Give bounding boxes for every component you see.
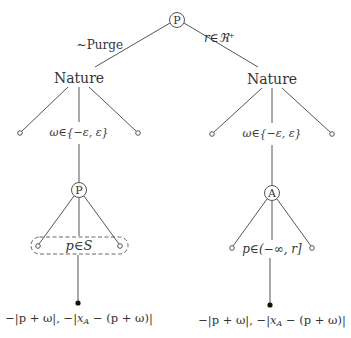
terminal-node [36, 244, 41, 249]
svg-text:P: P [173, 14, 181, 27]
edge-a-left [233, 199, 267, 246]
nature-edge-label-right: ω∈{−ε, ε} [242, 127, 301, 140]
nature-node-right: Nature [247, 71, 297, 87]
edge-nature-left-b [89, 87, 136, 131]
edge-a-right [277, 199, 311, 246]
edge-root-right [184, 23, 258, 67]
info-set-label: p∈S [66, 238, 93, 253]
terminal-node [330, 132, 335, 137]
edge-label-not-purge: ~Purge [77, 38, 123, 52]
choice-label-right: p∈(−∞, r] [242, 242, 302, 256]
terminal-node [18, 131, 23, 136]
nature-edge-label-left: ω∈{−ε, ε} [49, 126, 108, 139]
terminal-node [310, 246, 315, 251]
terminal-node [136, 131, 141, 136]
root-node-p: P [170, 13, 185, 28]
terminal-node [230, 246, 235, 251]
edge-nature-right-b [282, 88, 330, 132]
outcome-node-right [267, 302, 272, 307]
terminal-node [118, 244, 123, 249]
terminal-node [210, 132, 215, 137]
outcome-node-left [75, 300, 80, 305]
payoff-left: −|p + ω|, −|xA − (p + ω)| [5, 311, 153, 326]
svg-text:P: P [75, 184, 83, 197]
left-player-node-p: P [72, 183, 87, 198]
edge-label-r-positive-reals: r∈ℜ⁺ [204, 31, 235, 45]
nature-node-left: Nature [54, 70, 104, 86]
edge-nature-right-a [214, 88, 262, 132]
svg-text:A: A [267, 187, 277, 200]
game-tree-diagram: P ~Purge r∈ℜ⁺ Nature ω∈{−ε, ε} P p∈S −|p… [0, 0, 351, 338]
edge-nature-left-a [22, 87, 68, 131]
payoff-right: −|p + ω|, −|xA − (p + ω)| [198, 313, 346, 328]
right-player-node-a: A [265, 186, 280, 201]
